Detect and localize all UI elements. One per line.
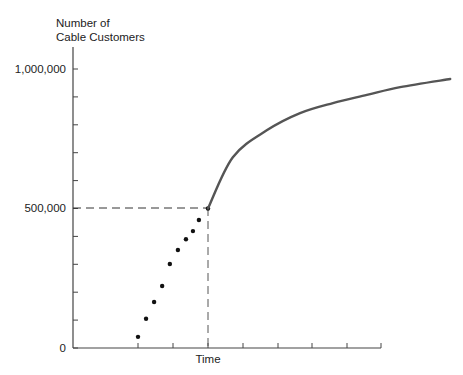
y-tick-label-1000000: 1,000,000 <box>15 63 66 75</box>
data-point <box>160 284 164 288</box>
data-point <box>176 248 180 252</box>
data-point <box>184 237 188 241</box>
x-ticks <box>138 343 381 348</box>
y-tick-label-0: 0 <box>60 342 66 354</box>
x-axis-label: Time <box>195 353 220 365</box>
projection-curve <box>208 79 450 208</box>
chart: Number of Cable Customers 1,000,000 500,… <box>0 0 463 375</box>
data-point <box>197 218 201 222</box>
data-point <box>168 262 172 266</box>
data-point <box>136 335 140 339</box>
data-point <box>144 317 148 321</box>
data-point <box>152 300 156 304</box>
y-axis-label-line1: Number of <box>56 17 110 29</box>
series-group <box>136 79 450 339</box>
y-tick-label-500000: 500,000 <box>24 202 66 214</box>
data-point <box>191 229 195 233</box>
y-axis-label-line2: Cable Customers <box>56 31 145 43</box>
